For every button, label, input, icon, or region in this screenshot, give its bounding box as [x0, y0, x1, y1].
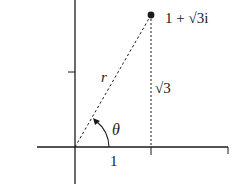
radius-label: r: [101, 69, 107, 85]
complex-point: [148, 12, 155, 19]
base-label: 1: [110, 153, 118, 169]
angle-label: θ: [112, 121, 120, 138]
height-label: √3: [155, 80, 171, 96]
complex-plane-diagram: 1 + √3i r √3 θ 1: [0, 0, 239, 192]
angle-arc: [96, 121, 109, 147]
point-label: 1 + √3i: [165, 10, 208, 26]
